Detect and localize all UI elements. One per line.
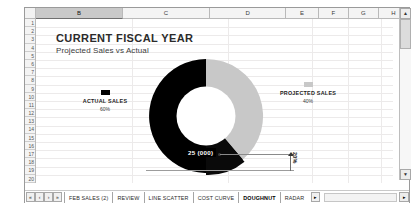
row-header-18[interactable]: 18: [25, 158, 35, 166]
vertical-scroll-thumb[interactable]: [400, 19, 411, 49]
legend-swatch-actual-icon: [101, 90, 110, 95]
horizontal-scrollbar[interactable]: [324, 193, 397, 202]
excel-worksheet-window: B C D E F G H 12345678910111213141516171…: [0, 0, 417, 210]
row-header-3[interactable]: 3: [25, 35, 35, 43]
legend-projected-label: PROJECTED SALES: [260, 90, 356, 96]
select-all-corner[interactable]: [25, 8, 36, 19]
legend-actual-percent: 60%: [68, 106, 142, 112]
legend-actual-sales: ACTUAL SALES 60%: [68, 90, 142, 112]
sheet-nav-buttons: « ‹ › »: [25, 192, 62, 202]
legend-swatch-projected-icon: [304, 82, 313, 87]
measure-percent-label: 20%: [292, 152, 298, 164]
doughnut-hole: [177, 87, 236, 146]
scroll-down-button[interactable]: ▼: [400, 169, 411, 180]
chart-title: CURRENT FISCAL YEAR: [56, 32, 193, 44]
column-header-e[interactable]: E: [286, 8, 319, 19]
sheet-tab-review[interactable]: REVIEW: [112, 192, 143, 203]
nav-last-sheet-button[interactable]: »: [53, 192, 62, 202]
legend-actual-label: ACTUAL SALES: [68, 98, 142, 104]
horizontal-scroll-right-button[interactable]: ▸: [399, 192, 409, 202]
column-header-c[interactable]: C: [123, 8, 210, 19]
row-header-16[interactable]: 16: [25, 142, 35, 150]
row-header-19[interactable]: 19: [25, 166, 35, 174]
row-header-2[interactable]: 2: [25, 27, 35, 35]
row-header-5[interactable]: 5: [25, 52, 35, 60]
measure-tick: [290, 154, 291, 171]
legend-projected-sales: PROJECTED SALES 40%: [260, 82, 356, 104]
sheet-tab-doughnut[interactable]: DOUGHNUT: [238, 192, 279, 203]
leader-line: [220, 154, 294, 155]
column-header-g[interactable]: G: [349, 8, 379, 19]
row-header-4[interactable]: 4: [25, 44, 35, 52]
nav-prev-sheet-button[interactable]: ‹: [35, 192, 44, 202]
row-header-15[interactable]: 15: [25, 134, 35, 142]
nav-next-sheet-button[interactable]: ›: [44, 192, 53, 202]
row-header-1[interactable]: 1: [25, 19, 35, 27]
row-header-9[interactable]: 9: [25, 85, 35, 93]
column-header-row: B C D E F G H: [25, 8, 409, 19]
baseline-rule: [146, 170, 294, 171]
row-header-10[interactable]: 10: [25, 93, 35, 101]
doughnut-graphic[interactable]: [146, 56, 266, 176]
row-header-20[interactable]: 20: [25, 175, 35, 183]
column-header-f[interactable]: F: [319, 8, 349, 19]
scroll-up-button[interactable]: ▲: [400, 8, 411, 19]
sheet-tab-cost-curve[interactable]: COST CURVE: [193, 192, 239, 203]
row-header-12[interactable]: 12: [25, 109, 35, 117]
row-header-column: 1234567891011121314151617181920: [25, 19, 36, 183]
row-header-11[interactable]: 11: [25, 101, 35, 109]
sheet-tab-feb-sales-2[interactable]: FEB SALES (2): [64, 192, 112, 203]
row-header-8[interactable]: 8: [25, 76, 35, 84]
row-header-7[interactable]: 7: [25, 68, 35, 76]
doughnut-chart-object[interactable]: CURRENT FISCAL YEAR Projected Sales vs A…: [42, 20, 376, 180]
sheet-tab-radar[interactable]: RADAR: [280, 192, 309, 203]
gridline-vertical: [381, 19, 382, 183]
column-header-d[interactable]: D: [210, 8, 286, 19]
sheet-tab-line-scatter[interactable]: LINE SCATTER: [144, 192, 193, 203]
data-callout-box: 25 (000): [185, 148, 216, 157]
sheet-tabs: FEB SALES (2)REVIEWLINE SCATTERCOST CURV…: [64, 191, 308, 203]
vertical-scroll-track[interactable]: [400, 19, 411, 169]
vertical-scrollbar[interactable]: ▲ ▼: [399, 8, 410, 180]
column-header-b[interactable]: B: [36, 8, 123, 19]
tab-scroll-right-button[interactable]: ▸: [311, 192, 320, 202]
chart-subtitle: Projected Sales vs Actual: [56, 46, 149, 55]
doughnut-svg: [146, 56, 266, 176]
nav-first-sheet-button[interactable]: «: [26, 192, 35, 202]
row-header-14[interactable]: 14: [25, 125, 35, 133]
legend-projected-percent: 40%: [260, 98, 356, 104]
row-header-13[interactable]: 13: [25, 117, 35, 125]
row-header-17[interactable]: 17: [25, 150, 35, 158]
row-header-6[interactable]: 6: [25, 60, 35, 68]
sheet-tab-bar: « ‹ › » FEB SALES (2)REVIEWLINE SCATTERC…: [25, 190, 409, 203]
